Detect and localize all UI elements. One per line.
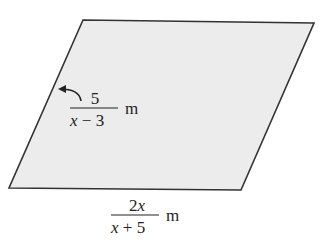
side-numerator: 5 <box>91 89 100 108</box>
base-numerator: 2x <box>129 196 146 215</box>
base-length-label: 2x x + 5 m <box>110 196 179 237</box>
base-denominator: x + 5 <box>110 218 145 237</box>
side-unit: m <box>125 99 138 118</box>
diagram-canvas: 5 x − 3 m 2x x + 5 m <box>0 0 321 245</box>
side-denominator: x − 3 <box>69 111 104 130</box>
base-unit: m <box>166 206 179 225</box>
parallelogram <box>9 20 314 190</box>
